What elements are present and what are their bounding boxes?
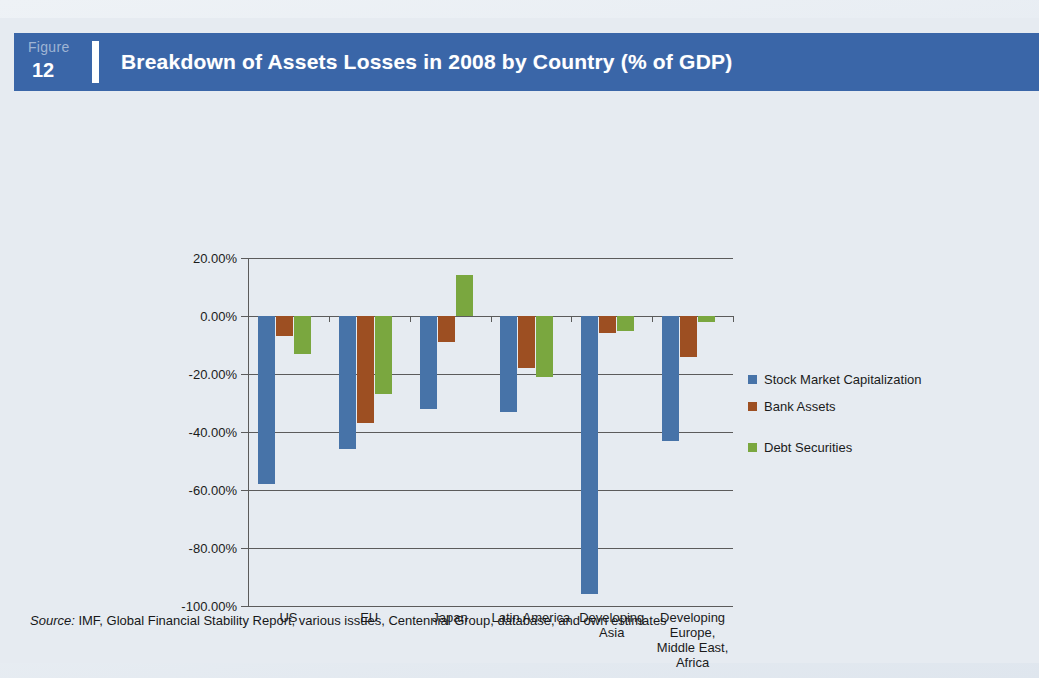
y-axis-label: -100.00% <box>181 599 237 614</box>
figure-title: Breakdown of Assets Losses in 2008 by Co… <box>121 50 732 74</box>
bar-brown <box>438 316 455 342</box>
bar-group <box>339 258 392 606</box>
bar-blue <box>258 316 275 484</box>
bar-brown <box>599 316 616 333</box>
legend-item: Stock Market Capitalization <box>748 372 928 387</box>
bar-green <box>536 316 553 377</box>
y-axis-tick <box>241 548 248 549</box>
gridline <box>248 432 733 433</box>
legend-label: Stock Market Capitalization <box>764 372 922 387</box>
y-axis-tick <box>241 374 248 375</box>
y-axis-tick <box>241 490 248 491</box>
legend-swatch-icon <box>748 402 757 411</box>
legend-item: Debt Securities <box>748 440 928 455</box>
source-note: Source: IMF, Global Financial Stability … <box>30 613 667 628</box>
bar-group <box>581 258 634 606</box>
x-axis-tick <box>410 316 411 322</box>
y-axis-label: -80.00% <box>189 541 237 556</box>
x-axis-tick <box>329 316 330 322</box>
figure-banner: Figure 12 Breakdown of Assets Losses in … <box>14 33 1039 91</box>
banner-divider <box>92 41 99 83</box>
figure-number: 12 <box>32 59 54 82</box>
bar-green <box>375 316 392 394</box>
bar-green <box>294 316 311 354</box>
legend-label: Debt Securities <box>764 440 852 455</box>
x-axis-tick <box>571 316 572 322</box>
source-text: IMF, Global Financial Stability Report, … <box>75 613 667 628</box>
y-axis-label: 0.00% <box>200 309 237 324</box>
y-axis-label: -40.00% <box>189 425 237 440</box>
y-axis-tick <box>241 432 248 433</box>
y-axis-tick <box>241 606 248 607</box>
legend-swatch-icon <box>748 375 757 384</box>
gridline <box>248 490 733 491</box>
bar-group <box>258 258 311 606</box>
y-axis-tick <box>241 316 248 317</box>
legend-swatch-icon <box>748 443 757 452</box>
source-label: Source: <box>30 613 75 628</box>
chart: 20.00%0.00%-20.00%-40.00%-60.00%-80.00%-… <box>0 100 1039 620</box>
bar-green <box>617 316 634 331</box>
y-axis-tick <box>241 258 248 259</box>
bar-brown <box>680 316 697 357</box>
bar-blue <box>339 316 356 449</box>
bar-group <box>500 258 553 606</box>
chart-legend: Stock Market CapitalizationBank AssetsDe… <box>748 372 928 469</box>
x-axis-tick <box>491 316 492 322</box>
legend-label: Bank Assets <box>764 399 836 414</box>
bar-blue <box>581 316 598 594</box>
bar-blue <box>420 316 437 409</box>
bar-group <box>662 258 715 606</box>
gridline <box>248 258 733 259</box>
gridline <box>248 374 733 375</box>
x-axis-tick <box>652 316 653 322</box>
bar-green <box>456 275 473 316</box>
bar-group <box>420 258 473 606</box>
y-axis-label: -20.00% <box>189 367 237 382</box>
bar-brown <box>357 316 374 423</box>
bar-blue <box>662 316 679 441</box>
x-axis-tick <box>733 316 734 322</box>
gridline <box>248 606 733 607</box>
y-axis-label: -60.00% <box>189 483 237 498</box>
bar-brown <box>276 316 293 336</box>
y-axis-label: 20.00% <box>193 251 237 266</box>
bar-brown <box>518 316 535 368</box>
legend-item: Bank Assets <box>748 399 928 414</box>
figure-number-block: Figure 12 <box>14 33 92 91</box>
figure-page: Figure 12 Breakdown of Assets Losses in … <box>0 0 1039 678</box>
bar-green <box>698 316 715 322</box>
plot-area: 20.00%0.00%-20.00%-40.00%-60.00%-80.00%-… <box>248 258 733 606</box>
figure-word: Figure <box>28 39 69 55</box>
bar-blue <box>500 316 517 412</box>
gridline <box>248 548 733 549</box>
